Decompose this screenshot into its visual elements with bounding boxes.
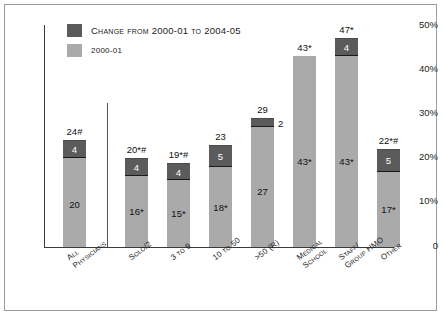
legend-label-change: Change from 2000-01 to 2004-05: [91, 25, 241, 36]
bar-baseline-label: 20: [63, 199, 86, 210]
group-separator-line: [107, 103, 108, 247]
y-tick-20: 20%: [404, 152, 438, 162]
legend-item-change: Change from 2000-01 to 2004-05: [67, 23, 241, 38]
bar-total-label: 20*#: [125, 144, 148, 155]
bar-7: 47*43*4: [335, 38, 358, 247]
bar-change-label: 4: [63, 144, 86, 155]
bar-total-label: 47*: [335, 24, 358, 35]
bar-change-label: 4: [335, 42, 358, 53]
bar-baseline-label: 17*: [377, 204, 400, 215]
bar-4: 2318*5: [209, 145, 232, 247]
bar-1: 24#204: [63, 140, 86, 247]
bar-total-label: 24#: [63, 126, 86, 137]
chart-legend: Change from 2000-01 to 2004-05 2000-01: [67, 23, 241, 63]
legend-swatch-baseline: [67, 44, 82, 57]
bar-change-label: 4: [167, 167, 190, 178]
bar-baseline-label: 27: [251, 186, 274, 197]
bar-change-label: 5: [209, 151, 232, 162]
y-tick-30: 30%: [404, 108, 438, 118]
y-tick-50: 50%: [404, 20, 438, 30]
bar-total-label: 43*: [293, 42, 316, 53]
bar-change-label: 4: [125, 162, 148, 173]
y-tick-40: 40%: [404, 64, 438, 74]
bar-baseline-label: 43*: [335, 156, 358, 167]
y-tick-0: 0: [404, 241, 438, 251]
legend-label-baseline: 2000-01: [91, 46, 122, 55]
bar-2: 20*#16*4: [125, 158, 148, 247]
chart-frame: 50% 40% 30% 20% 10% 0 Change from 2000-0…: [4, 4, 437, 311]
bar-segment-baseline: [335, 56, 358, 247]
bar-3: 19*#15*4: [167, 163, 190, 247]
bar-total-label: 23: [209, 131, 232, 142]
bar-baseline-label: 16*: [125, 206, 148, 217]
bar-baseline-label: 18*: [209, 202, 232, 213]
bar-total-label: 19*#: [167, 149, 190, 160]
y-tick-10: 10%: [404, 196, 438, 206]
bar-change-label: 5: [377, 155, 400, 166]
bar-segment-change: [251, 118, 274, 127]
bar-8: 22*#17*5: [377, 149, 400, 247]
legend-item-baseline: 2000-01: [67, 43, 241, 58]
bar-5: 29272: [251, 118, 274, 247]
bar-baseline-label: 43*: [293, 156, 316, 167]
bar-6: 43*43*: [293, 56, 316, 247]
bar-baseline-label: 15*: [167, 208, 190, 219]
chart-plot-area: 50% 40% 30% 20% 10% 0 Change from 2000-0…: [5, 5, 438, 312]
bar-total-label: 29: [251, 104, 274, 115]
bar-change-label: 2: [278, 118, 283, 129]
legend-swatch-change: [67, 24, 82, 37]
y-axis-line: [44, 25, 45, 247]
bar-segment-baseline: [293, 56, 316, 247]
bar-total-label: 22*#: [377, 135, 400, 146]
